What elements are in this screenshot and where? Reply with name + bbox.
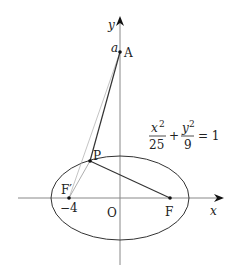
A-coord-label: a	[111, 41, 118, 55]
segment-P-Fprime	[69, 161, 90, 198]
x-axis-label: x	[210, 204, 217, 218]
ellipse-equation: x 2 25 + y 2 9 = 1	[149, 119, 220, 152]
svg-text:2: 2	[189, 119, 195, 129]
Fprime-coord-label: −4	[60, 201, 78, 215]
svg-text:= 1: = 1	[198, 129, 220, 143]
segment-A-P	[90, 52, 120, 161]
segment-P-F	[90, 161, 170, 198]
point-F	[168, 196, 172, 200]
P-label: P	[93, 149, 101, 163]
svg-text:25: 25	[149, 138, 164, 152]
F-label: F	[165, 205, 173, 219]
svg-text:2: 2	[159, 119, 165, 129]
A-label: A	[123, 46, 133, 60]
Fprime-label: F′	[61, 183, 72, 197]
ellipse-diagram: y x O a A P F′ −4 F x 2 25 + y 2 9 = 1	[0, 0, 235, 275]
svg-text:y: y	[181, 121, 189, 135]
y-axis-label: y	[107, 18, 115, 32]
origin-label: O	[107, 206, 117, 220]
point-P	[88, 159, 92, 163]
svg-text:x: x	[151, 121, 158, 135]
svg-text:9: 9	[184, 138, 192, 152]
point-A	[118, 50, 122, 54]
faint-line-A-Fprime	[69, 52, 120, 198]
svg-text:+: +	[169, 129, 179, 143]
